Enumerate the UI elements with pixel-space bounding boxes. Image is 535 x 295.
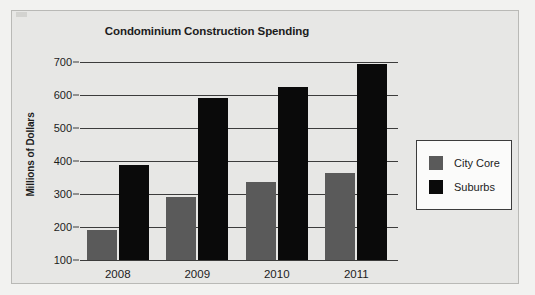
gridline [80, 62, 398, 63]
x-axis-baseline [80, 260, 398, 261]
legend-swatch-suburbs [429, 180, 443, 194]
bar-suburbs-2010 [278, 87, 308, 260]
y-axis-tick-mark [73, 161, 79, 162]
legend-label: City Core [454, 157, 500, 169]
x-axis-tick-label-2010: 2010 [264, 268, 290, 280]
bar-suburbs-2008 [119, 165, 149, 260]
bar-city-core-2010 [246, 182, 276, 260]
y-axis-tick-label: 500 [54, 122, 72, 134]
gridline [80, 95, 398, 96]
gridline [80, 128, 398, 129]
bar-suburbs-2011 [357, 64, 387, 260]
bar-city-core-2008 [87, 230, 117, 260]
y-axis-tick-mark [73, 62, 79, 63]
legend-item-city-core: City Core [429, 151, 511, 175]
y-axis-tick-label: 600 [54, 89, 72, 101]
bar-suburbs-2009 [198, 98, 228, 260]
scan-artifact [16, 12, 27, 17]
y-axis-tick-mark [73, 227, 79, 228]
y-axis-title: Millions of Dollars [25, 85, 36, 225]
y-axis-tick-label: 300 [54, 188, 72, 200]
y-axis-tick-mark [73, 260, 79, 261]
chart-title: Condominium Construction Spending [12, 25, 402, 37]
bar-city-core-2011 [325, 173, 355, 260]
plot-area: 100200300400500600700 2008200920102011 [80, 62, 398, 260]
gridline [80, 161, 398, 162]
x-axis-tick-label-2011: 2011 [344, 268, 369, 280]
y-axis-tick-label: 200 [54, 221, 72, 233]
legend-label: Suburbs [454, 181, 495, 193]
y-axis-tick-label: 700 [54, 56, 72, 68]
bar-city-core-2009 [166, 197, 196, 260]
y-axis-tick-mark [73, 194, 79, 195]
y-axis-tick-label: 400 [54, 155, 72, 167]
chart-figure: Condominium Construction Spending Millio… [11, 10, 519, 284]
y-axis-tick-mark [73, 128, 79, 129]
y-axis-tick-label: 100 [54, 254, 72, 266]
x-axis-tick-label-2009: 2009 [184, 268, 210, 280]
legend-swatch-city-core [429, 156, 443, 170]
x-axis-tick-label-2008: 2008 [105, 268, 131, 280]
y-axis-tick-mark [73, 95, 79, 96]
legend-item-suburbs: Suburbs [429, 175, 511, 199]
chart-legend: City CoreSuburbs [416, 140, 512, 210]
